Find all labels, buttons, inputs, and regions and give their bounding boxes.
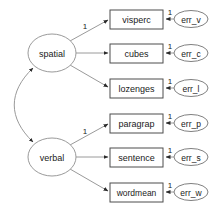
error-coefficient-err-p: 1 (168, 112, 173, 121)
indicator-node-wordmean[interactable]: wordmean (110, 183, 163, 202)
error-node-err-c[interactable]: err_c (174, 45, 208, 62)
error-coefficient-labels: 1 1 1 1 1 1 (168, 8, 173, 190)
error-coefficient-err-s: 1 (168, 146, 173, 155)
covariance-curve (14, 68, 33, 142)
error-label-err-v: err_v (181, 15, 201, 25)
latent-node-verbal[interactable]: verbal (28, 138, 76, 176)
loading-path-spatial-visperc (70, 20, 108, 41)
indicator-label-visperc: visperc (122, 15, 151, 25)
error-node-err-v[interactable]: err_v (174, 11, 208, 28)
loading-path-verbal-wordmean (70, 169, 108, 191)
loading-coefficient-visperc: 1 (83, 22, 88, 31)
loading-path-verbal-paragrap (70, 124, 108, 145)
diagram-canvas: visperc cubes lozenges paragrap sentence… (0, 0, 211, 213)
error-coefficient-err-v: 1 (168, 8, 173, 17)
indicator-node-sentence[interactable]: sentence (110, 148, 163, 167)
covariance-path-spatial-verbal (14, 68, 33, 142)
indicator-node-cubes[interactable]: cubes (110, 44, 163, 63)
error-coefficient-err-c: 1 (168, 42, 173, 51)
indicator-label-cubes: cubes (124, 49, 149, 59)
indicator-node-visperc[interactable]: visperc (110, 10, 163, 29)
indicator-label-sentence: sentence (118, 153, 155, 163)
indicator-node-lozenges[interactable]: lozenges (110, 79, 163, 98)
error-coefficient-err-l: 1 (168, 77, 173, 86)
loading-path-spatial-lozenges (70, 65, 108, 87)
error-label-err-s: err_s (181, 153, 200, 163)
indicator-label-paragrap: paragrap (118, 119, 154, 129)
error-node-err-s[interactable]: err_s (174, 149, 208, 166)
error-label-err-w: err_w (180, 188, 202, 198)
error-node-err-w[interactable]: err_w (174, 184, 208, 201)
error-node-err-p[interactable]: err_p (174, 115, 208, 132)
error-label-err-c: err_c (181, 49, 201, 59)
indicator-node-paragrap[interactable]: paragrap (110, 114, 163, 133)
error-coefficient-err-w: 1 (168, 181, 173, 190)
error-node-err-l[interactable]: err_l (174, 80, 208, 97)
latent-node-spatial[interactable]: spatial (28, 34, 76, 72)
error-label-err-l: err_l (182, 84, 199, 94)
latent-label-verbal: verbal (40, 153, 65, 163)
indicator-label-lozenges: lozenges (118, 84, 155, 94)
latent-label-spatial: spatial (39, 49, 65, 59)
error-label-err-p: err_p (181, 119, 201, 129)
indicator-label-wordmean: wordmean (116, 188, 157, 198)
loading-coefficient-paragrap: 1 (83, 127, 88, 136)
loading-coefficient-labels: 1 1 (83, 22, 88, 136)
sem-path-diagram: visperc cubes lozenges paragrap sentence… (0, 0, 211, 213)
